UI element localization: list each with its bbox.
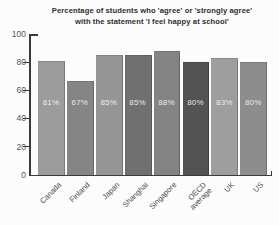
y-tick-mark-80 [23, 62, 30, 63]
bar-oecd-average: 80% [183, 62, 210, 175]
bar-finland: 67% [67, 81, 94, 175]
bar-value-label: 67% [67, 98, 93, 107]
x-axis-label-shanghai: Shanghai [121, 181, 150, 210]
bar-value-label: 80% [240, 98, 266, 107]
x-axis-end-tick [271, 171, 273, 176]
chart-figure: Percentage of students who 'agree' or 's… [0, 0, 279, 225]
y-axis-line [29, 34, 31, 176]
bar-singapore: 88% [154, 51, 181, 175]
bar-value-label: 81% [38, 98, 64, 107]
bar-value-label: 85% [125, 98, 151, 107]
chart-title-line2: with the statement 'I feel happy at scho… [30, 16, 274, 27]
bar-value-label: 83% [211, 98, 237, 107]
bar-canada: 81% [38, 61, 65, 175]
bar-value-label: 85% [96, 98, 122, 107]
bar-uk: 83% [211, 58, 238, 175]
chart-title-line1: Percentage of students who 'agree' or 's… [30, 5, 274, 16]
x-axis-label-us: US [252, 181, 265, 194]
y-tick-label-100: 100 [0, 29, 26, 39]
x-axis-label-singapore: Singapore [149, 181, 179, 211]
x-axis-label-canada: Canada [39, 181, 64, 206]
bar-value-label: 80% [183, 98, 209, 107]
bar-shanghai: 85% [125, 55, 152, 175]
y-tick-mark-40 [23, 118, 30, 119]
y-tick-label-0: 0 [0, 170, 26, 180]
x-axis-label-oecd-average: OECD average [183, 181, 214, 212]
bar-japan: 85% [96, 55, 123, 175]
y-tick-mark-60 [23, 90, 30, 91]
chart-title: Percentage of students who 'agree' or 's… [30, 5, 274, 27]
x-axis-label-finland: Finland [69, 181, 93, 205]
y-axis-top-cap [29, 34, 38, 36]
y-tick-mark-20 [23, 146, 30, 147]
bar-us: 80% [240, 62, 267, 175]
x-axis-label-uk: UK [223, 181, 236, 194]
x-axis-label-japan: Japan [101, 181, 122, 202]
bar-value-label: 88% [154, 98, 180, 107]
